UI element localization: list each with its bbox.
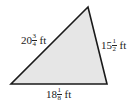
bottom-side-label: 18 1 8 ft [46,87,71,102]
bottom-side-denominator: 8 [58,95,62,102]
right-side-fraction: 1 2 [112,38,117,53]
right-side-label: 15 1 2 ft [101,38,126,53]
left-side-whole: 20 [21,35,32,46]
bottom-side-unit: ft [65,89,72,100]
right-side-unit: ft [120,40,127,51]
bottom-side-fraction: 1 8 [57,87,62,102]
left-side-fraction: 3 4 [32,33,37,48]
left-side-unit: ft [40,35,47,46]
left-side-denominator: 4 [33,41,37,48]
bottom-side-whole: 18 [46,89,57,100]
right-side-denominator: 2 [113,46,117,53]
right-side-whole: 15 [101,40,112,51]
left-side-label: 20 3 4 ft [21,33,46,48]
